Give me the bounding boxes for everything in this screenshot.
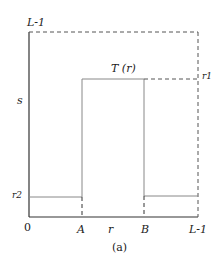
y-axis-label: s: [17, 95, 23, 106]
tick-a-label: A: [77, 224, 85, 235]
tick-max-label: L-1: [189, 224, 207, 235]
transform-high-segment: [82, 79, 144, 197]
tick-b-label: B: [141, 224, 149, 235]
origin-label: 0: [24, 222, 31, 233]
x-axis-label: r: [108, 224, 113, 235]
y-max-label: L-1: [27, 17, 45, 28]
r1-label: r1: [202, 72, 212, 81]
function-label: T (r): [111, 63, 136, 74]
caption: (a): [112, 242, 127, 253]
r2-label: r2: [12, 191, 22, 200]
